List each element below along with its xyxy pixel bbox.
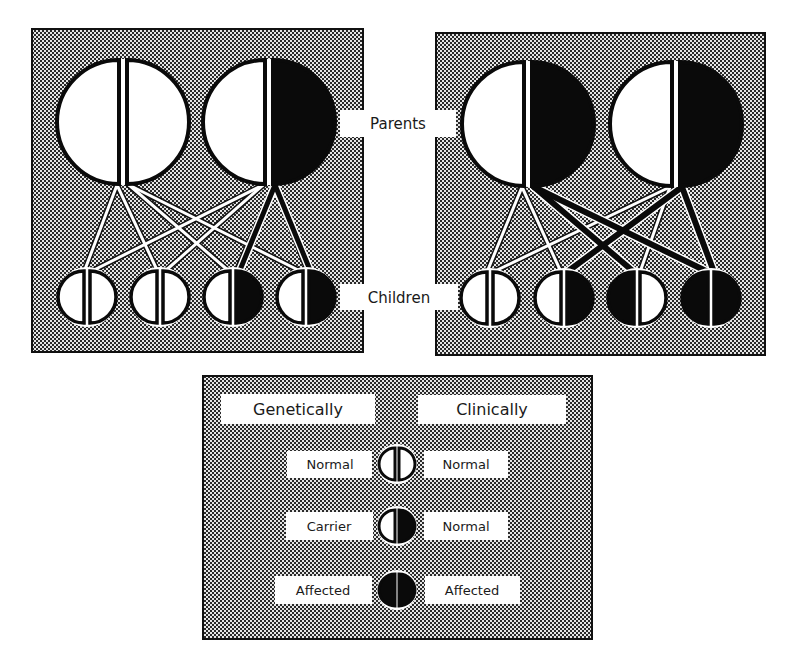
right-child-3 <box>607 268 667 328</box>
right-panel <box>436 33 765 355</box>
legend-row-normal-genetic: Normal <box>306 457 353 472</box>
left-parent-1 <box>57 59 189 185</box>
children-label-text: Children <box>368 289 430 307</box>
legend-row-affected-genetic: Affected <box>296 583 350 598</box>
right-child-4 <box>681 268 741 328</box>
left-child-3 <box>203 267 263 327</box>
legend-header-clinically: Clinically <box>418 395 566 424</box>
right-child-1 <box>460 268 520 328</box>
left-panel <box>32 29 363 352</box>
right-child-2 <box>534 268 594 328</box>
left-child-4 <box>276 267 336 327</box>
legend-header-genetically: Genetically <box>221 394 375 424</box>
left-child-2 <box>130 267 190 327</box>
legend-header-genetically-text: Genetically <box>253 400 343 419</box>
legend-row-affected: Affected Affected <box>275 570 520 610</box>
left-child-1 <box>57 267 117 327</box>
right-parent-1 <box>462 61 594 187</box>
legend-row-normal-clinical: Normal <box>442 457 489 472</box>
legend-header-clinically-text: Clinically <box>456 400 528 419</box>
legend-row-affected-clinical: Affected <box>445 583 499 598</box>
left-parent-2 <box>203 59 335 185</box>
legend-panel: Genetically Clinically Normal Normal Car… <box>203 376 592 639</box>
inheritance-diagram: Parents Children Genetically Clinically … <box>0 0 793 667</box>
children-label: Children <box>340 284 458 310</box>
parents-label-text: Parents <box>370 115 426 133</box>
legend-row-carrier-clinical: Normal <box>442 519 489 534</box>
right-parent-2 <box>610 61 742 187</box>
legend-row-carrier-genetic: Carrier <box>307 519 352 534</box>
parents-label: Parents <box>340 110 456 137</box>
legend-row-carrier: Carrier Normal <box>286 506 508 546</box>
